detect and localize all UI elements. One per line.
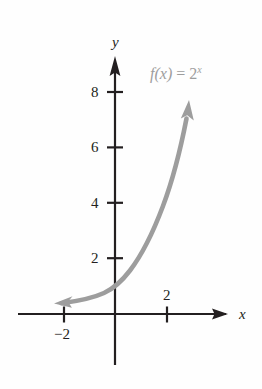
y-axis-label: y (112, 35, 119, 50)
x-tick-label-2: 2 (163, 288, 171, 303)
y-tick-label-2: 2 (91, 251, 99, 266)
function-equation-label: f(x) = 2x (150, 66, 202, 82)
exponent-value: x (197, 64, 201, 75)
graph-canvas (0, 0, 262, 389)
function-argument: (x) (154, 65, 172, 82)
x-tick-label-minus-2: −2 (54, 327, 70, 342)
y-tick-label-6: 6 (91, 140, 99, 155)
equals-sign: = (176, 65, 185, 82)
y-tick-label-4: 4 (91, 196, 99, 211)
exponential-function-graph: y x 8 6 4 2 −2 2 f(x) = 2x (0, 0, 262, 389)
exponential-curve (62, 119, 187, 304)
x-axis-label: x (239, 307, 246, 322)
y-tick-label-8: 8 (91, 85, 99, 100)
